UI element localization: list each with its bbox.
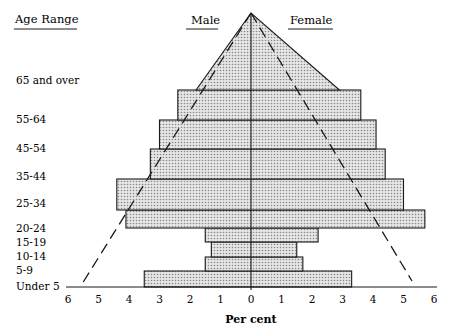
bars-group [117,13,425,287]
female-header: Female [290,13,333,27]
age-label: 55-64 [16,113,47,125]
bar-35-44 [150,149,385,179]
bar-15-19 [205,228,318,242]
age-label: 35-44 [16,170,47,182]
x-tick-label: 5 [400,293,407,305]
bar-55-64 [178,90,361,120]
age-range-header: Age Range [14,12,79,26]
age-label: 5-9 [16,264,33,276]
age-label: 10-14 [16,250,47,262]
x-tick-label: 6 [431,293,438,305]
bar-10-14 [211,242,296,257]
x-tick-label: 5 [95,293,102,305]
x-tick-label: 3 [156,293,163,305]
age-label: Under 5 [16,280,60,292]
x-tick-label: 4 [126,293,133,305]
bar-20-24 [126,210,425,228]
x-tick-label: 1 [217,293,224,305]
male-header: Male [191,13,220,27]
x-tick-label: 1 [278,293,285,305]
x-tick-label: 0 [248,293,255,305]
bar-under-5 [144,271,351,287]
bar-5-9 [205,257,303,271]
x-tick-label: 3 [339,293,346,305]
x-axis: 6543210123456Per cent [65,287,438,326]
age-label: 25-34 [16,197,47,209]
age-label: 45-54 [16,142,47,154]
bar-45-54 [160,120,377,149]
x-tick-label: 4 [370,293,377,305]
x-tick-label: 2 [309,293,316,305]
age-label: 65 and over [16,74,80,86]
x-axis-title: Per cent [225,313,277,326]
x-tick-label: 2 [187,293,194,305]
age-label: 15-19 [16,236,46,248]
age-label: 20-24 [16,222,47,234]
x-tick-label: 6 [65,293,72,305]
population-pyramid-chart: 6543210123456Per cent Age RangeMaleFemal… [0,0,450,336]
